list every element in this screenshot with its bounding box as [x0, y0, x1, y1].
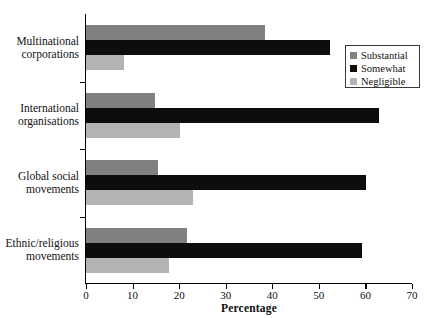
- legend: Substantial Somewhat Negligible: [345, 45, 420, 88]
- legend-item-somewhat: Somewhat: [350, 62, 415, 74]
- bar-substantial: [86, 93, 155, 108]
- bar-substantial: [86, 228, 187, 243]
- category-label: Multinational corporations: [16, 35, 79, 61]
- y-axis-tick: [80, 149, 85, 150]
- x-axis-tick-label: 0: [71, 289, 101, 302]
- category-label: Global social movements: [18, 170, 79, 196]
- legend-label: Negligible: [361, 76, 405, 87]
- y-axis-tick: [80, 217, 85, 218]
- x-axis-title: Percentage: [86, 302, 412, 314]
- bar-substantial: [86, 160, 158, 175]
- x-axis-tick-label: 70: [397, 289, 427, 302]
- legend-label: Substantial: [361, 50, 408, 61]
- x-axis-tick-label: 50: [304, 289, 334, 302]
- x-axis-tick-label: 20: [164, 289, 194, 302]
- x-axis-tick-label: 30: [211, 289, 241, 302]
- bar-chart: Multinational corporationsInternational …: [0, 0, 427, 318]
- legend-item-substantial: Substantial: [350, 49, 415, 61]
- legend-item-negligible: Negligible: [350, 75, 415, 87]
- bar-somewhat: [86, 40, 330, 55]
- bar-negligible: [86, 258, 169, 273]
- bar-substantial: [86, 25, 265, 40]
- x-axis-tick-label: 60: [350, 289, 380, 302]
- bar-somewhat: [86, 175, 366, 190]
- x-axis-tick-label: 40: [257, 289, 287, 302]
- bar-somewhat: [86, 108, 379, 123]
- y-axis-tick: [80, 82, 85, 83]
- bar-negligible: [86, 55, 124, 70]
- category-label: International organisations: [18, 102, 79, 128]
- legend-swatch-icon: [350, 52, 357, 59]
- bar-negligible: [86, 123, 180, 138]
- legend-swatch-icon: [350, 78, 357, 85]
- x-axis-tick-label: 10: [118, 289, 148, 302]
- bar-negligible: [86, 190, 193, 205]
- category-label: Ethnic/religious movements: [6, 237, 79, 263]
- legend-swatch-icon: [350, 65, 357, 72]
- legend-label: Somewhat: [361, 63, 405, 74]
- bar-somewhat: [86, 243, 362, 258]
